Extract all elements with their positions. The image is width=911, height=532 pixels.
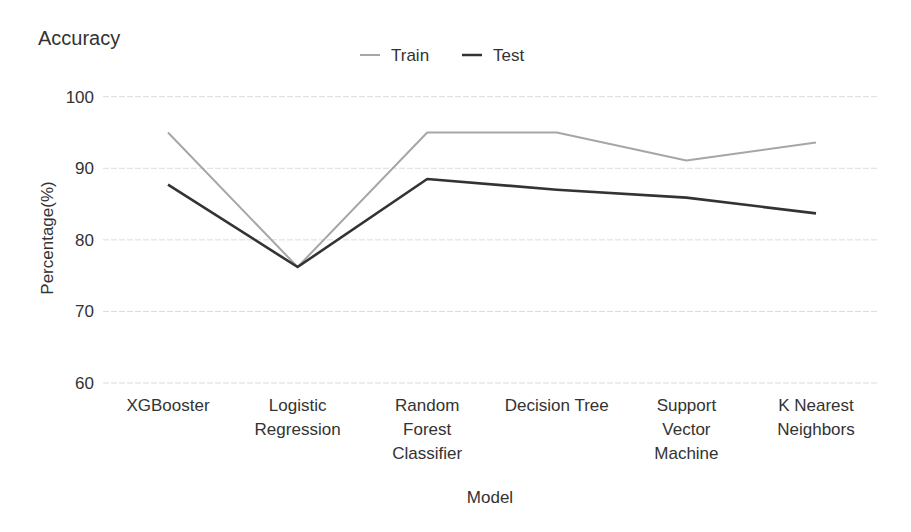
series-line-test xyxy=(168,179,816,267)
y-tick-label: 90 xyxy=(75,159,94,178)
y-tick-label: 70 xyxy=(75,302,94,321)
x-category-label: RandomForestClassifier xyxy=(392,396,462,463)
y-axis-ticks: 60708090100 xyxy=(66,88,94,393)
x-category-label: Decision Tree xyxy=(505,396,609,415)
gridlines xyxy=(103,97,878,383)
series-lines xyxy=(168,133,816,268)
x-axis-title: Model xyxy=(467,488,513,507)
legend-item-test: Test xyxy=(462,46,524,65)
chart-title: Accuracy xyxy=(38,27,120,49)
y-tick-label: 60 xyxy=(75,374,94,393)
y-axis-title: Percentage(%) xyxy=(38,181,57,294)
x-category-label: LogisticRegression xyxy=(255,396,341,439)
x-category-label: SupportVectorMachine xyxy=(654,396,718,463)
legend: Train Test xyxy=(360,46,524,65)
legend-item-train: Train xyxy=(360,46,429,65)
y-tick-label: 80 xyxy=(75,231,94,250)
x-category-label: K NearestNeighbors xyxy=(777,396,855,439)
legend-test-label: Test xyxy=(493,46,524,65)
x-category-label: XGBooster xyxy=(126,396,209,415)
accuracy-line-chart: Accuracy Train Test 60708090100 Percenta… xyxy=(0,0,911,532)
legend-train-label: Train xyxy=(391,46,429,65)
x-axis-categories: XGBoosterLogisticRegressionRandomForestC… xyxy=(126,396,854,463)
y-tick-label: 100 xyxy=(66,88,94,107)
